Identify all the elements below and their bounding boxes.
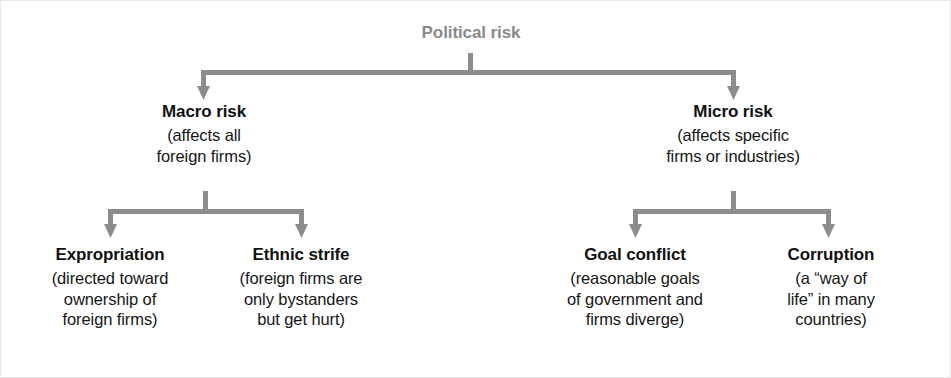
node-goal-conflict-label: Goal conflict <box>547 244 723 266</box>
connector-macro-stem <box>203 191 208 210</box>
description-line: firms or industries) <box>633 146 833 167</box>
node-political-risk: Political risk <box>371 23 571 43</box>
connector-micro-drop <box>731 70 736 88</box>
node-micro-risk-description: (affects specific firms or industries) <box>633 125 833 167</box>
connector-micro-bar <box>633 209 831 214</box>
node-expropriation-description: (directed toward ownership of foreign fi… <box>30 268 190 331</box>
description-line: (directed toward <box>30 268 190 289</box>
description-line: (affects specific <box>633 125 833 146</box>
node-macro-risk: Macro risk (affects all foreign firms) <box>104 101 304 166</box>
node-expropriation: Expropriation (directed toward ownership… <box>30 244 190 330</box>
arrow-head-macro <box>197 86 210 100</box>
connector-micro-stem <box>731 191 736 210</box>
description-line: life” in many <box>756 289 906 310</box>
description-line: (reasonable goals <box>547 268 723 289</box>
arrow-head-ethnic <box>295 224 308 238</box>
connector-macro-drop <box>201 70 206 88</box>
node-macro-risk-description: (affects all foreign firms) <box>104 125 304 167</box>
node-ethnic-strife: Ethnic strife (foreign firms are only by… <box>221 244 381 330</box>
node-corruption-label: Corruption <box>756 244 906 266</box>
description-line: ownership of <box>30 289 190 310</box>
arrow-head-goal <box>629 224 642 238</box>
description-line: only bystanders <box>221 289 381 310</box>
connector-root-stem <box>468 53 473 74</box>
description-line: (foreign firms are <box>221 268 381 289</box>
node-goal-conflict: Goal conflict (reasonable goals of gover… <box>547 244 723 330</box>
connector-goal-drop <box>633 209 638 226</box>
description-line: countries) <box>756 309 906 330</box>
arrow-head-corruption <box>822 224 835 238</box>
node-corruption: Corruption (a “way of life” in many coun… <box>756 244 906 330</box>
description-line: foreign firms) <box>30 309 190 330</box>
node-micro-risk: Micro risk (affects specific firms or in… <box>633 101 833 166</box>
connector-ethnic-drop <box>299 209 304 226</box>
description-line: but get hurt) <box>221 309 381 330</box>
description-line: firms diverge) <box>547 309 723 330</box>
connector-macro-bar <box>108 209 304 214</box>
node-goal-conflict-description: (reasonable goals of government and firm… <box>547 268 723 331</box>
node-expropriation-label: Expropriation <box>30 244 190 266</box>
node-micro-risk-label: Micro risk <box>633 101 833 123</box>
description-line: (affects all <box>104 125 304 146</box>
node-political-risk-label: Political risk <box>371 23 571 43</box>
description-line: foreign firms) <box>104 146 304 167</box>
node-corruption-description: (a “way of life” in many countries) <box>756 268 906 331</box>
description-line: of government and <box>547 289 723 310</box>
connector-level1-bar <box>201 70 736 75</box>
connector-corruption-drop <box>826 209 831 226</box>
node-ethnic-strife-label: Ethnic strife <box>221 244 381 266</box>
description-line: (a “way of <box>756 268 906 289</box>
node-ethnic-strife-description: (foreign firms are only bystanders but g… <box>221 268 381 331</box>
political-risk-diagram: Political risk Macro risk (affects all f… <box>0 0 951 378</box>
connector-expropriation-drop <box>108 209 113 226</box>
node-macro-risk-label: Macro risk <box>104 101 304 123</box>
arrow-head-expropriation <box>104 224 117 238</box>
arrow-head-micro <box>727 86 740 100</box>
